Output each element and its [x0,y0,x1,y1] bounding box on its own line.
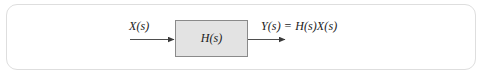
input-signal-label: X(s) [129,19,149,34]
output-signal-label: Y(s) = H(s)X(s) [261,19,337,34]
transfer-function-label: H(s) [175,31,248,46]
